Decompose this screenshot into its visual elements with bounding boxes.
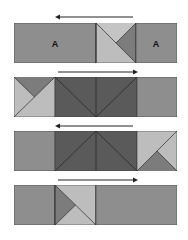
plain-block-row-2 — [137, 77, 177, 117]
dark-triangle-block-row-3 — [55, 131, 137, 171]
hinge-square-row-2 — [14, 77, 55, 117]
hinge-square-row-1 — [96, 23, 136, 63]
hinge-square-row-3 — [137, 131, 177, 171]
strip-row-1: A A — [14, 23, 177, 63]
dark-triangle-block-row-2 — [55, 77, 137, 117]
label-a-right: A — [153, 39, 160, 49]
strip-row-2 — [14, 77, 177, 117]
plain-block-right-row-4 — [96, 185, 177, 225]
arrow-left-row-3 — [55, 123, 135, 129]
strip-row-3 — [14, 131, 177, 171]
plain-block-row-3 — [14, 131, 55, 171]
arrow-left-row-1 — [55, 14, 135, 20]
hinge-square-row-4 — [55, 185, 96, 225]
arrow-right-row-4 — [58, 177, 138, 183]
arrow-right-row-2 — [58, 69, 138, 75]
label-a-left: A — [52, 39, 59, 49]
plain-block-left-row-4 — [14, 185, 55, 225]
strip-row-4 — [14, 185, 177, 225]
